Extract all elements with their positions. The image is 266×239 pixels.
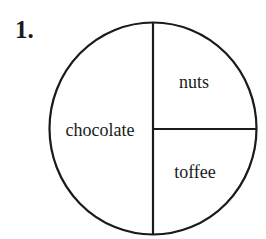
pie-chart: chocolate nuts toffee bbox=[0, 0, 266, 239]
slice-label-nuts: nuts bbox=[179, 72, 209, 92]
slice-label-toffee: toffee bbox=[174, 162, 216, 182]
slice-label-chocolate: chocolate bbox=[66, 120, 135, 140]
